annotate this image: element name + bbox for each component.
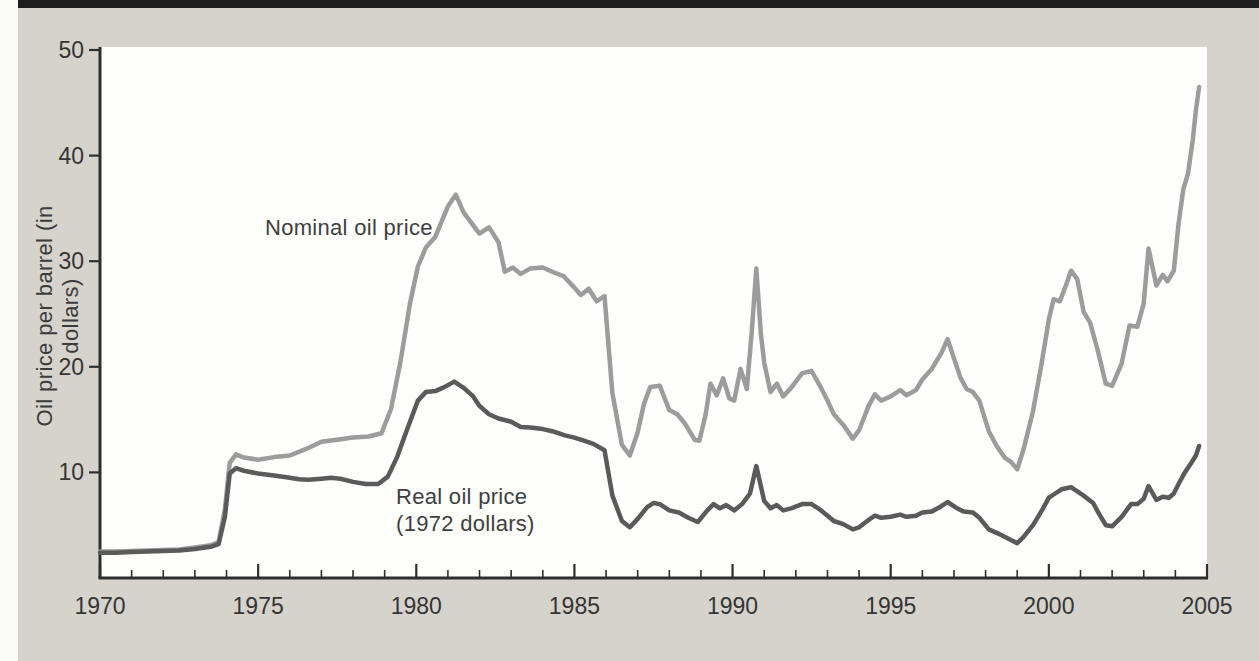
y-tick-label-40: 40 <box>58 143 84 169</box>
x-tick-label-1975: 1975 <box>233 593 284 619</box>
x-tick-label-2000: 2000 <box>1023 593 1074 619</box>
y-tick-label-30: 30 <box>58 248 84 274</box>
x-tick-label-2005: 2005 <box>1181 593 1232 619</box>
x-tick-label-1980: 1980 <box>391 593 442 619</box>
real-series-label-line1: Real oil price <box>396 483 535 510</box>
scanned-figure-page: 1970197519801985199019952000200510203040… <box>0 0 1259 661</box>
x-tick-label-1985: 1985 <box>549 593 600 619</box>
nominal-series-label: Nominal oil price <box>265 214 433 241</box>
y-tick-label-10: 10 <box>58 459 84 485</box>
chart-canvas: 1970197519801985199019952000200510203040… <box>0 0 1259 661</box>
real-series-label: Real oil price (1972 dollars) <box>396 483 535 537</box>
x-tick-label-1990: 1990 <box>707 593 758 619</box>
x-tick-label-1970: 1970 <box>74 593 125 619</box>
oil-price-chart: 1970197519801985199019952000200510203040… <box>0 0 1259 661</box>
y-axis-title: Oil price per barrel (in dollars) <box>32 171 60 461</box>
y-tick-label-50: 50 <box>58 37 84 63</box>
x-tick-label-1995: 1995 <box>865 593 916 619</box>
real-series-label-line2: (1972 dollars) <box>396 510 535 537</box>
y-tick-label-20: 20 <box>58 354 84 380</box>
plot-area <box>100 47 1207 578</box>
